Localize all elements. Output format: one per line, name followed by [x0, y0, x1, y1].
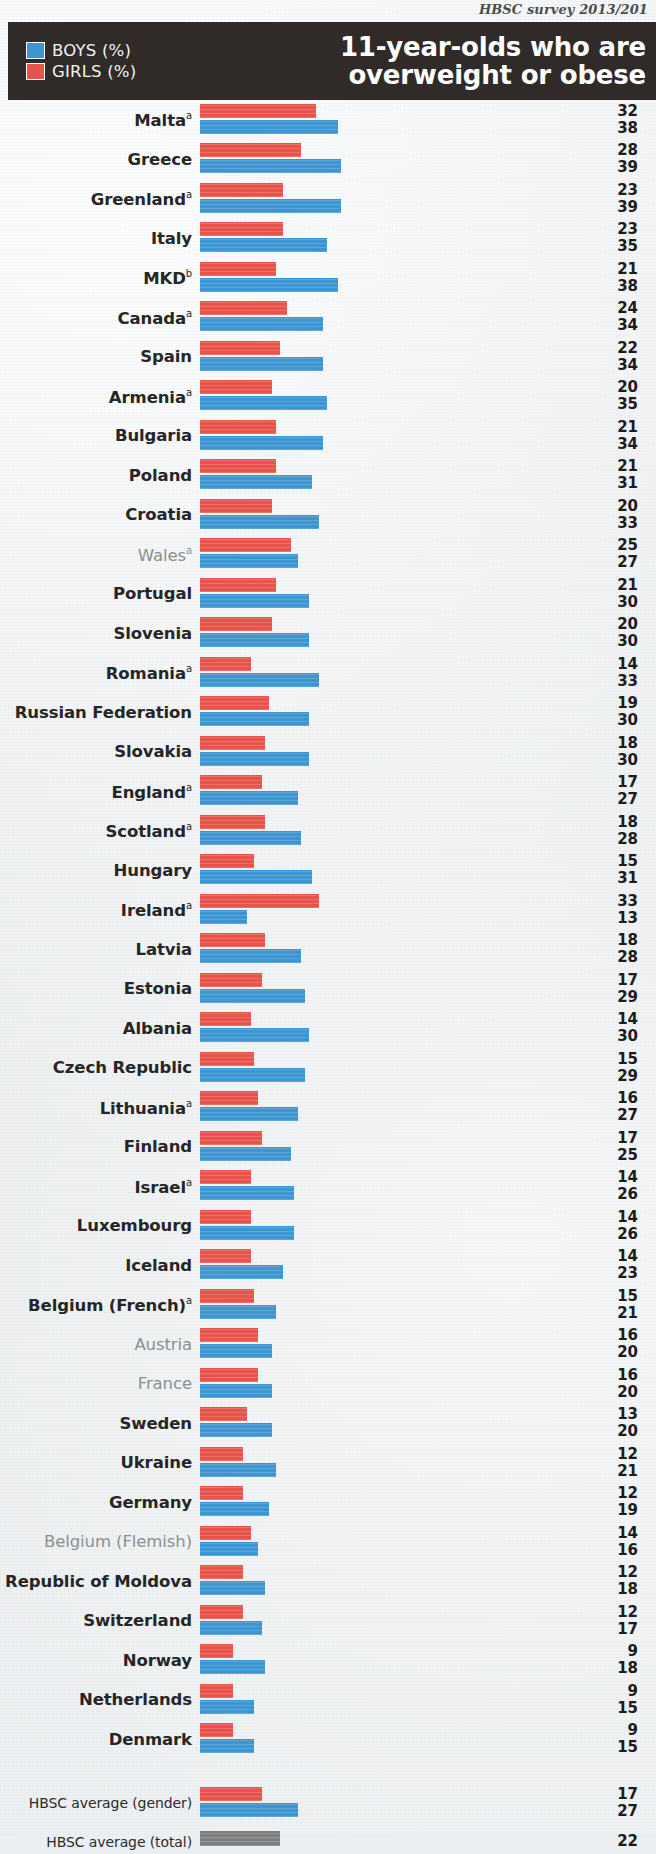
bar-pair — [200, 419, 560, 453]
value-boys: 30 — [560, 633, 638, 650]
category-name: Ireland — [121, 901, 186, 920]
bar-girls — [200, 1605, 243, 1619]
category-label: Bulgaria — [0, 426, 200, 445]
category-label: Denmark — [0, 1730, 200, 1749]
hbsc-average-gender-bars — [200, 1786, 560, 1820]
category-label: MKDb — [0, 268, 200, 288]
chart-header-band: BOYS (%) GIRLS (%) 11-year-olds who are … — [8, 22, 656, 100]
bar-girls — [200, 1210, 251, 1224]
bar-boys — [200, 1739, 254, 1753]
category-name: Albania — [123, 1019, 192, 1038]
value-boys: 18 — [560, 1660, 638, 1677]
bar-pair — [200, 1406, 560, 1440]
category-name: MKD — [143, 269, 186, 288]
category-label: Greenlanda — [0, 189, 200, 209]
table-row: Austria1620 — [0, 1325, 656, 1365]
bar-boys — [200, 1147, 291, 1161]
bar-girls — [200, 143, 301, 157]
bar-girls — [200, 696, 269, 710]
bar-boys — [200, 278, 338, 292]
legend-swatch-boys — [26, 42, 45, 59]
value-labels: 2434 — [560, 300, 656, 335]
category-name: Ukraine — [120, 1453, 192, 1472]
bar-pair — [200, 1485, 560, 1519]
bar-girls — [200, 854, 254, 868]
value-boys: 16 — [560, 1542, 638, 1559]
bar-pair — [200, 1643, 560, 1677]
category-name: Hungary — [114, 861, 192, 880]
value-girls: 13 — [560, 1406, 638, 1423]
bar-boys — [200, 1423, 272, 1437]
bar-pair — [200, 221, 560, 255]
table-row: Israela1426 — [0, 1167, 656, 1207]
value-girls: 16 — [560, 1090, 638, 1107]
table-row: Romaniaa1433 — [0, 653, 656, 693]
category-name: Spain — [140, 347, 192, 366]
bar-girls — [200, 933, 265, 947]
source-note: HBSC survey 2013/201 — [0, 0, 648, 22]
bar-girls — [200, 657, 251, 671]
value-labels: 1531 — [560, 853, 656, 888]
hbsc-average-total-label: HBSC average (total) — [0, 1834, 200, 1850]
table-row: Greenlanda2339 — [0, 179, 656, 219]
value-labels: 1221 — [560, 1446, 656, 1481]
table-row: MKDb2138 — [0, 258, 656, 298]
table-row: Bulgaria2134 — [0, 416, 656, 456]
table-row: Portugal2130 — [0, 574, 656, 614]
table-row: Croatia2033 — [0, 495, 656, 535]
category-label: Russian Federation — [0, 703, 200, 722]
bar-pair — [200, 379, 560, 413]
bar-boys — [200, 831, 301, 845]
table-row: Irelanda3313 — [0, 890, 656, 930]
bar-girls — [200, 459, 276, 473]
value-labels: 1218 — [560, 1564, 656, 1599]
chart-title-line-1: 11-year-olds who are — [340, 33, 646, 61]
bar-girls — [200, 301, 287, 315]
table-row: Poland2131 — [0, 456, 656, 496]
value-labels: 1620 — [560, 1327, 656, 1362]
bar-boys — [200, 633, 309, 647]
value-girls: 17 — [560, 1786, 638, 1803]
table-row: Italy2335 — [0, 219, 656, 259]
category-name: Scotland — [106, 822, 186, 841]
category-label: Slovenia — [0, 624, 200, 643]
table-row: Maltaa3238 — [0, 100, 656, 140]
bar-boys — [200, 515, 319, 529]
value-girls: 15 — [560, 853, 638, 870]
category-label: Croatia — [0, 505, 200, 524]
category-name: Latvia — [136, 940, 192, 959]
bar-pair — [200, 340, 560, 374]
bar-pair — [200, 261, 560, 295]
category-label: Poland — [0, 466, 200, 485]
bar-girls — [200, 183, 283, 197]
value-girls: 18 — [560, 814, 638, 831]
category-label: Portugal — [0, 584, 200, 603]
value-girls: 32 — [560, 103, 638, 120]
category-label: Walesa — [0, 545, 200, 565]
bar-boys — [200, 1803, 298, 1817]
category-name: Netherlands — [79, 1690, 192, 1709]
category-label: Scotlanda — [0, 821, 200, 841]
table-row: Hungary1531 — [0, 851, 656, 891]
category-label: Finland — [0, 1137, 200, 1156]
category-label: Republic of Moldova — [0, 1572, 200, 1591]
bar-girls — [200, 420, 276, 434]
value-girls: 14 — [560, 1209, 638, 1226]
bar-girls — [200, 1289, 254, 1303]
bar-pair — [200, 656, 560, 690]
value-labels: 2033 — [560, 498, 656, 533]
bar-girls — [200, 1091, 258, 1105]
value-boys: 20 — [560, 1344, 638, 1361]
value-girls: 25 — [560, 537, 638, 554]
table-row: Germany1219 — [0, 1483, 656, 1523]
table-row: Canadaa2434 — [0, 298, 656, 338]
bar-pair — [200, 972, 560, 1006]
value-girls: 14 — [560, 1011, 638, 1028]
table-row: Lithuaniaa1627 — [0, 1088, 656, 1128]
footnote-marker: a — [186, 545, 192, 556]
bar-girls — [200, 1565, 243, 1579]
bar-boys — [200, 317, 323, 331]
bar-pair — [200, 774, 560, 808]
value-girls: 21 — [560, 577, 638, 594]
value-boys: 28 — [560, 949, 638, 966]
